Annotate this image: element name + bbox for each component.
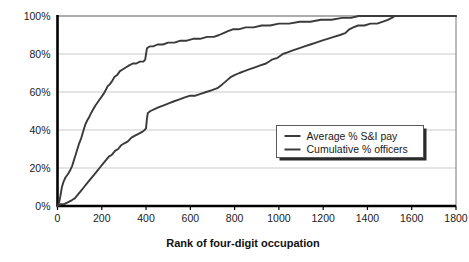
x-tick-label: 1200: [311, 212, 335, 224]
y-axis-tick-labels: 0%20%40%60%80%100%: [24, 10, 51, 212]
x-tick-label: 200: [93, 212, 111, 224]
series-line-1: [58, 16, 457, 206]
legend-label-0: Average % S&I pay: [307, 130, 399, 142]
series-line-0: [58, 16, 457, 206]
x-tick-label: 400: [137, 212, 155, 224]
y-tick-label: 0%: [35, 200, 50, 212]
legend-label-1: Cumulative % officers: [307, 143, 408, 155]
axes: [57, 15, 457, 206]
series-lines: [58, 16, 457, 206]
chart-container: 0%20%40%60%80%100% 020040060080010001200…: [0, 0, 469, 262]
y-tick-label: 100%: [24, 10, 51, 22]
x-tick-label: 1800: [444, 212, 468, 224]
y-tick-label: 20%: [29, 162, 50, 174]
y-tick-label: 40%: [29, 124, 50, 136]
x-tick-label: 0: [55, 212, 61, 224]
y-tick-label: 60%: [29, 86, 50, 98]
x-axis-title: Rank of four-digit occupation: [166, 237, 320, 249]
y-tick-label: 80%: [29, 48, 50, 60]
legend: Average % S&I payCumulative % officers: [277, 126, 427, 161]
line-chart: 0%20%40%60%80%100% 020040060080010001200…: [0, 0, 469, 262]
x-axis-tick-labels: 020040060080010001200140016001800: [55, 212, 468, 224]
x-tick-label: 800: [226, 212, 244, 224]
x-tick-label: 600: [182, 212, 200, 224]
x-tick-label: 1400: [356, 212, 380, 224]
x-tick-label: 1600: [400, 212, 424, 224]
x-tick-label: 1000: [267, 212, 291, 224]
